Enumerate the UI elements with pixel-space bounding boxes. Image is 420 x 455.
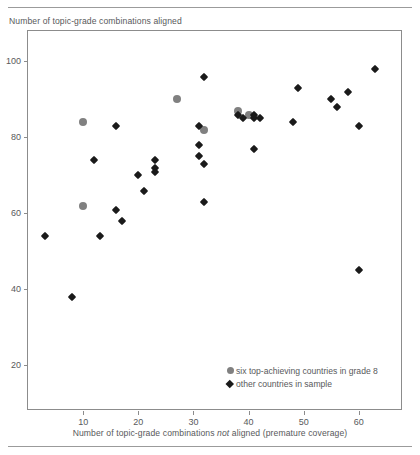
- y-tick-label: 60: [11, 208, 21, 218]
- data-point: [200, 160, 208, 168]
- x-tick: [193, 411, 194, 415]
- data-point: [327, 95, 335, 103]
- y-tick: [24, 289, 28, 290]
- x-tick: [304, 411, 305, 415]
- chart-legend: six top-achieving countries in grade 8 o…: [224, 364, 378, 390]
- y-tick: [24, 137, 28, 138]
- data-point: [371, 65, 379, 73]
- y-tick-label: 100: [6, 56, 21, 66]
- data-point: [79, 202, 87, 210]
- x-tick: [138, 411, 139, 415]
- data-point: [134, 171, 142, 179]
- x-axis-title-after: aligned (premature coverage): [229, 428, 347, 438]
- data-point: [79, 118, 87, 126]
- top-divider-rule: [8, 7, 412, 8]
- data-point: [90, 156, 98, 164]
- data-point: [95, 232, 103, 240]
- data-point: [255, 114, 263, 122]
- data-point: [200, 72, 208, 80]
- data-point: [294, 84, 302, 92]
- y-tick-label: 80: [11, 132, 21, 142]
- legend-label: six top-achieving countries in grade 8: [236, 366, 378, 376]
- diamond-marker-icon: [224, 381, 236, 387]
- data-point: [151, 156, 159, 164]
- data-point: [200, 198, 208, 206]
- data-point: [355, 266, 363, 274]
- x-tick: [249, 411, 250, 415]
- x-tick-label: 20: [133, 417, 143, 427]
- legend-item-top-achieving: six top-achieving countries in grade 8: [224, 364, 378, 377]
- x-tick-label: 30: [188, 417, 198, 427]
- data-point: [250, 145, 258, 153]
- circle-marker-icon: [224, 367, 236, 374]
- x-tick-label: 10: [78, 417, 88, 427]
- data-point: [68, 293, 76, 301]
- x-axis-title-italic: not: [217, 428, 229, 438]
- data-point: [344, 88, 352, 96]
- x-tick-label: 40: [244, 417, 254, 427]
- x-axis-title-before: Number of topic-grade combinations: [73, 428, 217, 438]
- data-point: [173, 95, 181, 103]
- data-point: [118, 217, 126, 225]
- x-tick-label: 60: [354, 417, 364, 427]
- scatter-plot-figure: Number of topic-grade combinations align…: [0, 0, 420, 455]
- y-axis-title: Number of topic-grade combinations align…: [9, 16, 182, 26]
- data-point: [140, 186, 148, 194]
- plot-area: 20406080100 102030405060 six top-achievi…: [27, 30, 402, 410]
- legend-item-other-countries: other countries in sample: [224, 377, 378, 390]
- y-tick-label: 20: [11, 360, 21, 370]
- data-point: [195, 141, 203, 149]
- data-point: [112, 205, 120, 213]
- bottom-divider-rule: [8, 446, 412, 447]
- data-point: [112, 122, 120, 130]
- x-tick-label: 50: [299, 417, 309, 427]
- data-point: [40, 232, 48, 240]
- data-point: [195, 152, 203, 160]
- x-tick: [83, 411, 84, 415]
- y-tick: [24, 61, 28, 62]
- data-point: [355, 122, 363, 130]
- y-tick: [24, 365, 28, 366]
- x-axis-title: Number of topic-grade combinations not a…: [0, 428, 420, 438]
- y-tick: [24, 213, 28, 214]
- data-point: [333, 103, 341, 111]
- x-tick: [359, 411, 360, 415]
- legend-label: other countries in sample: [236, 379, 332, 389]
- data-point: [288, 118, 296, 126]
- y-tick-label: 40: [11, 284, 21, 294]
